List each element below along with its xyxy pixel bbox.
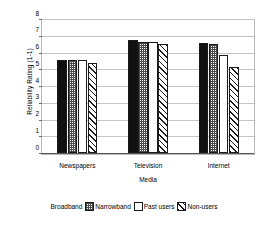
bar: [148, 42, 158, 153]
legend-entry[interactable]: Narrowband: [85, 202, 133, 211]
legend-label: Narrowband: [95, 203, 130, 210]
bar: [68, 60, 78, 153]
y-tick-label: 4: [5, 77, 39, 84]
x-axis-title: Media: [41, 176, 255, 183]
legend-swatch-icon: [177, 202, 186, 211]
y-tick-label: 3: [5, 94, 39, 101]
y-tick-mark: [39, 36, 42, 37]
y-tick-mark: [39, 86, 42, 87]
y-tick-label: 0: [5, 144, 39, 151]
y-tick-mark: [39, 136, 42, 137]
bar-group: [128, 19, 168, 153]
y-tick-label: 8: [5, 10, 39, 16]
legend-label: Non-users: [187, 203, 217, 210]
x-axis-line: [42, 153, 254, 154]
x-tick-label: Newspapers: [59, 162, 95, 169]
legend-entry[interactable]: Past users: [134, 202, 178, 211]
bar: [57, 60, 67, 153]
bar: [229, 67, 239, 153]
bar: [199, 43, 209, 153]
plot-inner: 012345678: [42, 20, 254, 154]
y-tick-mark: [39, 69, 42, 70]
y-tick-label: 1: [5, 128, 39, 135]
bar-chart-figure: Reliability Rating (1-1) 012345678 Media…: [0, 0, 271, 225]
legend-swatch-icon: [134, 202, 143, 211]
x-tick-label: Internet: [208, 162, 230, 169]
bar: [128, 40, 138, 153]
legend-label: Past users: [144, 203, 175, 210]
bar-group: [199, 19, 239, 153]
legend-swatch-icon: [85, 202, 94, 211]
x-tick-label: Television: [134, 162, 163, 169]
bar: [78, 60, 88, 153]
bar: [88, 63, 98, 153]
y-tick-label: 2: [5, 111, 39, 118]
bar: [158, 44, 168, 153]
y-tick-label: 6: [5, 44, 39, 51]
bar: [209, 44, 219, 153]
legend-entry[interactable]: Non-users: [177, 202, 220, 211]
plot-area: 012345678: [41, 19, 255, 155]
legend-label: Broadband: [51, 203, 83, 210]
bar: [138, 42, 148, 153]
y-tick-label: 5: [5, 61, 39, 68]
bar: [219, 55, 229, 153]
y-tick-mark: [39, 19, 42, 20]
y-tick-mark: [39, 53, 42, 54]
legend-entry[interactable]: Broadband: [51, 203, 86, 210]
y-tick-mark: [39, 103, 42, 104]
y-tick-mark: [39, 120, 42, 121]
bar-group: [57, 19, 97, 153]
y-tick-label: 7: [5, 27, 39, 34]
chart-legend: BroadbandNarrowbandPast usersNon-users: [0, 202, 271, 211]
